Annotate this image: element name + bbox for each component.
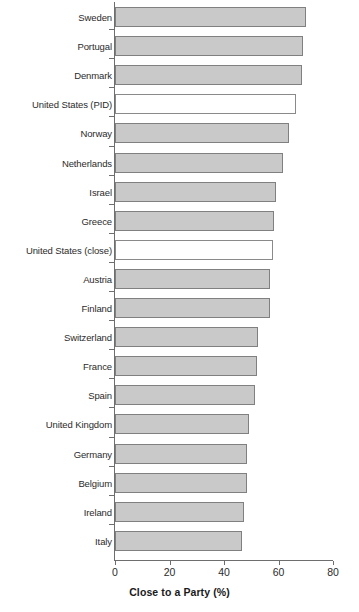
category-label: Greece	[81, 207, 112, 236]
category-label: Austria	[83, 265, 112, 294]
y-axis-tick	[109, 58, 114, 59]
bar-row: Germany	[0, 440, 359, 469]
bar	[115, 123, 289, 143]
bar-row: Sweden	[0, 3, 359, 32]
x-axis-tick-label: 20	[150, 566, 190, 578]
x-axis-tick-label: 80	[313, 566, 353, 578]
x-axis-tick	[170, 561, 171, 565]
y-axis-tick	[109, 437, 114, 438]
category-label: Belgium	[78, 469, 112, 498]
bar-row: France	[0, 352, 359, 381]
y-axis-tick	[109, 378, 114, 379]
x-axis-tick	[279, 561, 280, 565]
category-label: France	[83, 352, 112, 381]
category-label: Spain	[88, 381, 112, 410]
category-label: Ireland	[84, 498, 112, 527]
bar-row: Ireland	[0, 498, 359, 527]
bar-row: Switzerland	[0, 323, 359, 352]
y-axis-tick	[109, 29, 114, 30]
category-label: Sweden	[78, 3, 112, 32]
category-label: Germany	[74, 440, 112, 469]
x-axis-tick-label: 0	[95, 566, 135, 578]
bar	[115, 36, 303, 56]
x-axis-title: Close to a Party (%)	[0, 586, 359, 598]
bar	[115, 94, 296, 114]
bar	[115, 211, 274, 231]
y-axis-tick	[109, 146, 114, 147]
bar	[115, 269, 270, 289]
bar	[115, 444, 247, 464]
bar-row: Austria	[0, 265, 359, 294]
y-axis-tick	[109, 407, 114, 408]
x-axis-tick	[224, 561, 225, 565]
y-axis-tick	[109, 466, 114, 467]
bar-row: Finland	[0, 294, 359, 323]
category-label: United States (close)	[26, 236, 112, 265]
category-label: Portugal	[77, 32, 112, 61]
bar-row: Italy	[0, 527, 359, 556]
bar-chart-close-to-a-party: SwedenPortugalDenmarkUnited States (PID)…	[0, 0, 359, 612]
category-label: Netherlands	[62, 149, 112, 178]
x-axis-tick	[333, 561, 334, 565]
bar	[115, 531, 242, 551]
category-label: Israel	[89, 178, 112, 207]
bar	[115, 182, 276, 202]
category-label: United States (PID)	[32, 90, 112, 119]
category-label: Italy	[95, 527, 112, 556]
x-axis-tick-label: 40	[204, 566, 244, 578]
y-axis-tick	[109, 495, 114, 496]
bar	[115, 298, 270, 318]
category-label: United Kingdom	[46, 410, 112, 439]
bar	[115, 153, 283, 173]
y-axis-tick	[109, 291, 114, 292]
category-label: Switzerland	[64, 323, 112, 352]
bar-row: Greece	[0, 207, 359, 236]
bar	[115, 327, 258, 347]
bar-row: Portugal	[0, 32, 359, 61]
bar-row: United Kingdom	[0, 410, 359, 439]
x-axis-tick-label: 60	[259, 566, 299, 578]
bar	[115, 502, 244, 522]
y-axis-tick	[109, 87, 114, 88]
y-axis-tick	[109, 116, 114, 117]
category-label: Norway	[80, 119, 112, 148]
y-axis-tick	[109, 233, 114, 234]
y-axis-tick	[109, 349, 114, 350]
bar-row: Israel	[0, 178, 359, 207]
bar	[115, 385, 255, 405]
bar-row: United States (close)	[0, 236, 359, 265]
bar	[115, 356, 257, 376]
bar-row: Denmark	[0, 61, 359, 90]
bar	[115, 414, 249, 434]
bar	[115, 65, 302, 85]
y-axis-tick	[109, 320, 114, 321]
y-axis-tick	[109, 262, 114, 263]
bar-row: Spain	[0, 381, 359, 410]
bar	[115, 240, 273, 260]
bar-row: Belgium	[0, 469, 359, 498]
bar	[115, 7, 306, 27]
bar-row: Norway	[0, 119, 359, 148]
bar	[115, 473, 247, 493]
plot-area: SwedenPortugalDenmarkUnited States (PID)…	[0, 0, 359, 560]
bar-row: Netherlands	[0, 149, 359, 178]
bar-row: United States (PID)	[0, 90, 359, 119]
y-axis-tick	[109, 524, 114, 525]
y-axis-tick	[109, 175, 114, 176]
x-axis-tick	[115, 561, 116, 565]
category-label: Denmark	[74, 61, 112, 90]
category-label: Finland	[82, 294, 112, 323]
y-axis-tick	[109, 204, 114, 205]
